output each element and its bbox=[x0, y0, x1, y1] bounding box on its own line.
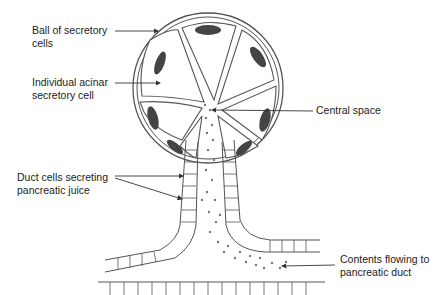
label-contents-flowing: Contents flowing to pancreatic duct bbox=[340, 253, 429, 279]
label-ball-of-secretory-cells: Ball of secretory cells bbox=[32, 24, 107, 50]
label-individual-acinar-cell: Individual acinar secretory cell bbox=[32, 76, 108, 102]
label-duct-cells: Duct cells secreting pancreatic juice bbox=[17, 171, 108, 197]
duct-cell-dividers bbox=[110, 150, 306, 295]
label-central-space: Central space bbox=[316, 104, 381, 117]
